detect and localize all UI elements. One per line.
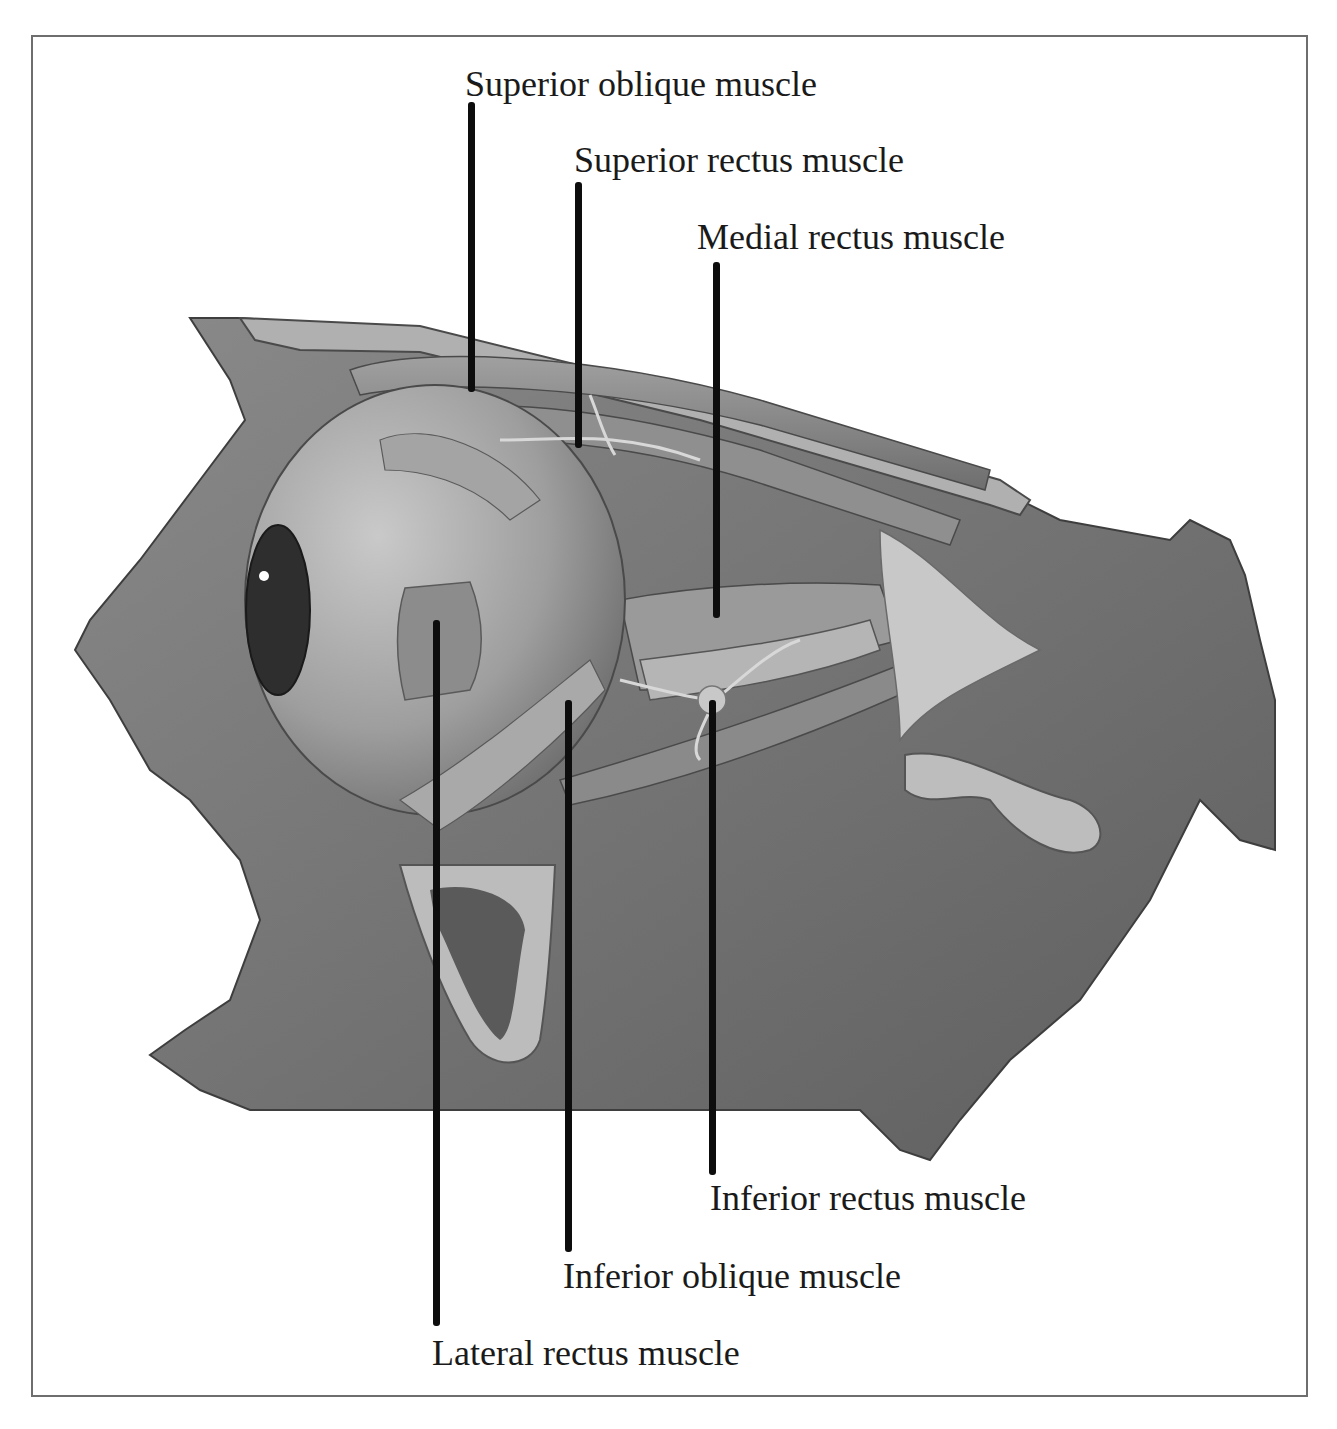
label-superior-rectus-muscle: Superior rectus muscle (574, 142, 904, 178)
leader-line-inferior-oblique (565, 700, 572, 1252)
orbit-illustration (0, 0, 1337, 1429)
label-superior-oblique-muscle: Superior oblique muscle (465, 66, 817, 102)
leader-line-superior-oblique (468, 102, 475, 392)
leader-line-lateral-rectus (433, 620, 440, 1326)
label-lateral-rectus-muscle: Lateral rectus muscle (432, 1335, 740, 1371)
cornea (246, 525, 310, 695)
leader-line-medial-rectus (713, 262, 720, 618)
label-inferior-rectus-muscle: Inferior rectus muscle (710, 1180, 1026, 1216)
leader-line-inferior-rectus (709, 700, 716, 1175)
label-inferior-oblique-muscle: Inferior oblique muscle (563, 1258, 901, 1294)
label-medial-rectus-muscle: Medial rectus muscle (697, 219, 1005, 255)
leader-line-superior-rectus (575, 182, 582, 448)
cornea-highlight (259, 571, 269, 581)
